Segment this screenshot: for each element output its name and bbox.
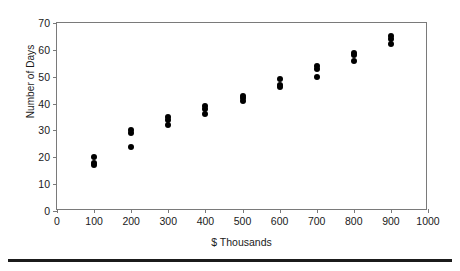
x-tick-label: 500 xyxy=(234,215,252,227)
x-tick-mark xyxy=(317,209,318,213)
data-point xyxy=(314,74,320,80)
y-tick-mark xyxy=(53,77,57,78)
x-tick-mark xyxy=(243,209,244,213)
x-tick-label: 600 xyxy=(271,215,289,227)
y-axis-title: Number of Days xyxy=(25,2,36,162)
data-point xyxy=(277,84,283,90)
y-tick-label: 40 xyxy=(38,98,50,110)
x-tick-label: 1000 xyxy=(416,215,439,227)
x-tick-mark xyxy=(354,209,355,213)
x-tick-mark xyxy=(280,209,281,213)
data-point xyxy=(165,122,171,128)
data-point xyxy=(202,111,208,117)
y-tick-label: 0 xyxy=(44,205,50,217)
y-tick-label: 10 xyxy=(38,178,50,190)
x-tick-label: 200 xyxy=(122,215,140,227)
y-tick-label: 70 xyxy=(38,17,50,29)
x-tick-label: 800 xyxy=(345,215,363,227)
x-tick-label: 900 xyxy=(382,215,400,227)
data-point xyxy=(388,41,394,47)
x-tick-mark xyxy=(131,209,132,213)
x-tick-label: 300 xyxy=(160,215,178,227)
data-point xyxy=(240,98,246,104)
x-tick-mark xyxy=(428,209,429,213)
y-tick-mark xyxy=(53,104,57,105)
x-tick-mark xyxy=(57,209,58,213)
y-tick-label: 20 xyxy=(38,151,50,163)
x-tick-label: 100 xyxy=(85,215,103,227)
data-point xyxy=(351,58,357,64)
x-tick-mark xyxy=(94,209,95,213)
x-tick-mark xyxy=(391,209,392,213)
y-tick-label: 50 xyxy=(38,71,50,83)
y-tick-mark xyxy=(53,157,57,158)
plot-area: 010203040506070 010020030040050060070080… xyxy=(56,22,427,210)
data-point xyxy=(128,130,134,136)
scatter-chart-figure: Number of Days 010203040506070 010020030… xyxy=(0,0,460,271)
x-tick-mark xyxy=(168,209,169,213)
x-axis-title: $ Thousands xyxy=(56,236,427,248)
x-tick-label: 0 xyxy=(54,215,60,227)
x-tick-label: 700 xyxy=(308,215,326,227)
x-tick-mark xyxy=(205,209,206,213)
x-tick-label: 400 xyxy=(197,215,215,227)
y-tick-label: 30 xyxy=(38,124,50,136)
data-point xyxy=(91,162,97,168)
y-tick-mark xyxy=(53,50,57,51)
data-point xyxy=(314,66,320,72)
y-tick-mark xyxy=(53,23,57,24)
y-tick-label: 60 xyxy=(38,44,50,56)
y-tick-mark xyxy=(53,130,57,131)
bottom-divider xyxy=(8,259,452,262)
y-tick-mark xyxy=(53,184,57,185)
data-point xyxy=(128,144,134,150)
